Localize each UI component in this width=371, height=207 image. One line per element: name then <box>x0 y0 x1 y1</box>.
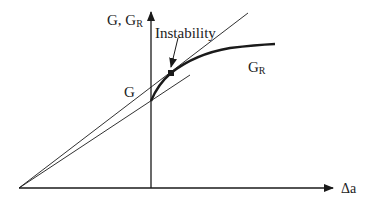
instability-label: Instability <box>155 25 216 41</box>
y-axis-label: G, GR <box>107 12 143 29</box>
instability-point <box>168 70 174 76</box>
g-line-lower <box>19 75 190 188</box>
g-label: G <box>124 84 135 100</box>
gr-label: GR <box>248 59 266 76</box>
x-axis-label: Δa <box>341 181 357 196</box>
instability-arrow <box>171 38 178 67</box>
r-curve-diagram: G, GR Instability G GR Δa <box>0 0 371 207</box>
